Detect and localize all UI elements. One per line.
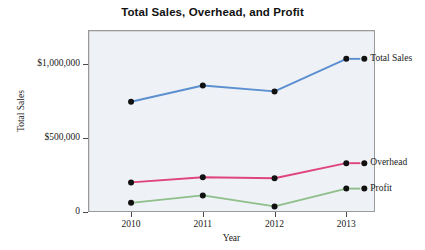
x-axis-tick-label-2013: 2013 xyxy=(321,219,371,229)
data-point-marker xyxy=(272,88,278,94)
data-point-marker xyxy=(343,56,349,62)
y-axis-title: Total Sales xyxy=(16,76,26,146)
x-axis-tick-label-2011: 2011 xyxy=(178,219,228,229)
x-axis-title: Year xyxy=(88,233,375,243)
series-line-total-sales xyxy=(131,59,346,102)
series-label-total-sales: Total Sales xyxy=(370,53,412,63)
data-point-marker xyxy=(272,175,278,181)
data-point-marker xyxy=(272,203,278,209)
series-label-profit: Profit xyxy=(370,183,392,193)
data-point-marker xyxy=(343,160,349,166)
data-point-marker xyxy=(128,179,134,185)
data-point-marker xyxy=(128,99,134,105)
plot-series-layer xyxy=(88,30,375,212)
series-line-overhead xyxy=(131,163,346,182)
y-axis-tick-label-500000: $500,000 xyxy=(0,132,80,142)
line-chart: Total Sales, Overhead, and Profit $1,000… xyxy=(0,0,425,250)
series-label-overhead: Overhead xyxy=(370,157,407,167)
x-axis-tick-label-2010: 2010 xyxy=(106,219,156,229)
x-axis-tick-label-2012: 2012 xyxy=(250,219,300,229)
y-axis-tick-label-1000000: $1,000,000 xyxy=(0,58,80,68)
data-point-marker xyxy=(128,200,134,206)
y-axis-tick-label-0: 0 xyxy=(0,206,80,216)
chart-title: Total Sales, Overhead, and Profit xyxy=(0,6,425,18)
data-point-marker xyxy=(200,174,206,180)
series-line-profit xyxy=(131,189,346,207)
data-point-marker xyxy=(200,82,206,88)
data-point-marker xyxy=(343,186,349,192)
data-point-marker xyxy=(200,192,206,198)
